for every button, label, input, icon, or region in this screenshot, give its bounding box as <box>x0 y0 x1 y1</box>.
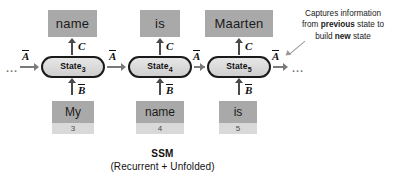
state-label-3: State5 <box>226 61 251 73</box>
state-label-1: State3 <box>60 61 85 73</box>
input-box-1: My <box>52 101 94 123</box>
input-arrow-line-3 <box>238 83 240 95</box>
output-arrow-head-3 <box>235 38 243 43</box>
input-arrow-line-2 <box>159 83 161 95</box>
output-arrow-head-1 <box>68 38 76 43</box>
label-A-3: A <box>272 50 279 63</box>
input-arrow-line-1 <box>71 83 73 95</box>
right-ellipsis: ... <box>292 63 304 74</box>
state-box-2: State4 <box>128 56 192 78</box>
input-index-box-1: 3 <box>52 123 94 134</box>
left-ellipsis: ... <box>6 63 18 74</box>
recurrent-head-0 <box>34 63 39 71</box>
output-box-3: Maarten <box>205 10 273 37</box>
recurrent-head-1 <box>121 63 126 71</box>
recurrent-line-1 <box>107 66 122 68</box>
annotation-text: Captures information from previous state… <box>291 8 395 42</box>
input-index-box-3: 5 <box>219 123 257 134</box>
label-B-2: B <box>166 84 173 97</box>
recurrent-line-0 <box>20 66 35 68</box>
input-arrow-head-2 <box>156 78 164 83</box>
annotation-line-1: Captures information <box>291 8 395 19</box>
label-C-1: C <box>78 40 85 52</box>
state-box-1: State3 <box>41 56 105 78</box>
output-arrow-head-2 <box>156 38 164 43</box>
label-B-1: B <box>78 84 85 97</box>
ssm-diagram: name C State3 B My 3 is C State4 B name … <box>0 0 395 185</box>
label-A-1: A <box>109 50 116 63</box>
annotation-line-2: from previous state to <box>291 19 395 30</box>
caption-subtitle: (Recurrent + Unfolded) <box>0 161 360 172</box>
label-C-2: C <box>166 40 173 52</box>
input-index-box-2: 4 <box>136 123 184 134</box>
label-C-3: C <box>245 40 252 52</box>
label-A-0: A <box>22 50 29 63</box>
recurrent-head-2 <box>200 63 205 71</box>
state-box-3: State5 <box>207 56 271 78</box>
caption-title: SSM <box>0 148 360 159</box>
output-box-1: name <box>48 10 97 37</box>
output-arrow-line-3 <box>238 43 240 55</box>
recurrent-head-3 <box>283 63 288 71</box>
input-box-2: name <box>136 101 184 123</box>
output-arrow-line-1 <box>71 43 73 55</box>
input-arrow-head-3 <box>235 78 243 83</box>
input-box-3: is <box>219 101 257 123</box>
output-arrow-line-2 <box>159 43 161 55</box>
annotation-line-3: build new state <box>291 31 395 42</box>
output-box-2: is <box>140 10 180 37</box>
label-B-3: B <box>245 84 252 97</box>
label-A-2: A <box>193 50 200 63</box>
input-arrow-head-1 <box>68 78 76 83</box>
annotation-leader-line <box>289 41 306 55</box>
state-label-2: State4 <box>147 61 172 73</box>
